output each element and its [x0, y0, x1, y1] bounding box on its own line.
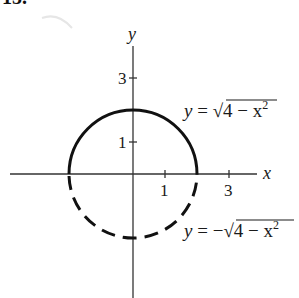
x-tick-label-1: 1 [160, 181, 169, 200]
radical-sign: √ [223, 220, 234, 241]
y-axis-label: y [126, 24, 136, 44]
upper-equation: y = √4 − x2 [182, 98, 277, 121]
y-tick-label-3: 3 [118, 69, 127, 88]
semicircle-diagram: 1 3 1 3 y x y = √4 − x2 y = −√4 − x2 [0, 0, 299, 298]
x-axis-label: x [262, 163, 271, 183]
scan-artifact [42, 16, 72, 28]
y-tick-label-1: 1 [118, 133, 127, 152]
lower-equation: y = −√4 − x2 [182, 218, 294, 241]
x-tick-label-3: 3 [224, 181, 233, 200]
svg-text:y = √4 − x2: y = √4 − x2 [182, 98, 268, 121]
radical-sign: √ [213, 100, 224, 121]
svg-text:y = −√4 − x2: y = −√4 − x2 [182, 218, 279, 241]
